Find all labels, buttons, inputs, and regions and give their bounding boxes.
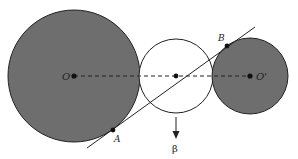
- arrow-down-icon: [173, 131, 180, 139]
- point-B: [225, 44, 230, 49]
- point-O-prime: [247, 73, 252, 78]
- point-O: [71, 73, 76, 78]
- label-O: O: [62, 71, 70, 82]
- label-beta: β: [172, 143, 178, 154]
- point-middle-center: [174, 74, 179, 79]
- label-A: A: [113, 134, 121, 144]
- circles-diagram: O O' A B β: [0, 0, 298, 159]
- label-O-prime: O': [256, 71, 267, 82]
- label-B: B: [217, 33, 225, 43]
- point-A: [111, 128, 116, 133]
